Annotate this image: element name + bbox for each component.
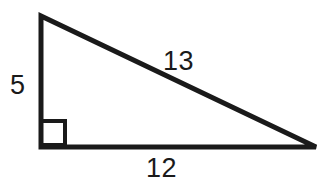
label-hypotenuse: 13 (163, 48, 194, 75)
label-vertical-leg: 5 (10, 72, 26, 99)
label-horizontal-leg: 12 (146, 155, 177, 182)
right-triangle-figure: 5 13 12 (0, 0, 334, 182)
triangle-outline (41, 16, 316, 147)
